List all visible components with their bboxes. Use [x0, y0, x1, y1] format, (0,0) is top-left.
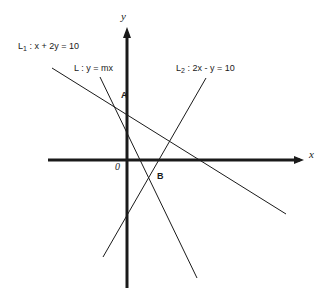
line-l1 [52, 68, 286, 214]
line-label-l1: L1 : x + 2y = 10 [18, 42, 79, 51]
x-axis-arrowhead [294, 156, 304, 164]
line-label-l2-sub: 2 [181, 67, 185, 74]
x-axis-label: x [309, 149, 314, 160]
y-axis-label: y [121, 11, 126, 22]
math-figure-canvas: L1 : x + 2y = 10 L : y = mx L2 : 2x - y … [0, 0, 329, 301]
line-label-l1-sub: 1 [23, 45, 27, 52]
line-label-l2: L2 : 2x - y = 10 [176, 64, 235, 73]
line-label-l2-rest: : 2x - y = 10 [185, 63, 235, 73]
line-label-l1-rest: : x + 2y = 10 [27, 41, 79, 51]
lines-group [52, 68, 286, 278]
y-axis-arrowhead [123, 27, 131, 38]
origin-label: 0 [115, 162, 120, 172]
line-label-l: L : y = mx [74, 64, 113, 73]
point-label-a: A [121, 91, 128, 100]
line-label-l-rest: : y = mx [79, 63, 113, 73]
point-label-b: B [157, 172, 164, 181]
